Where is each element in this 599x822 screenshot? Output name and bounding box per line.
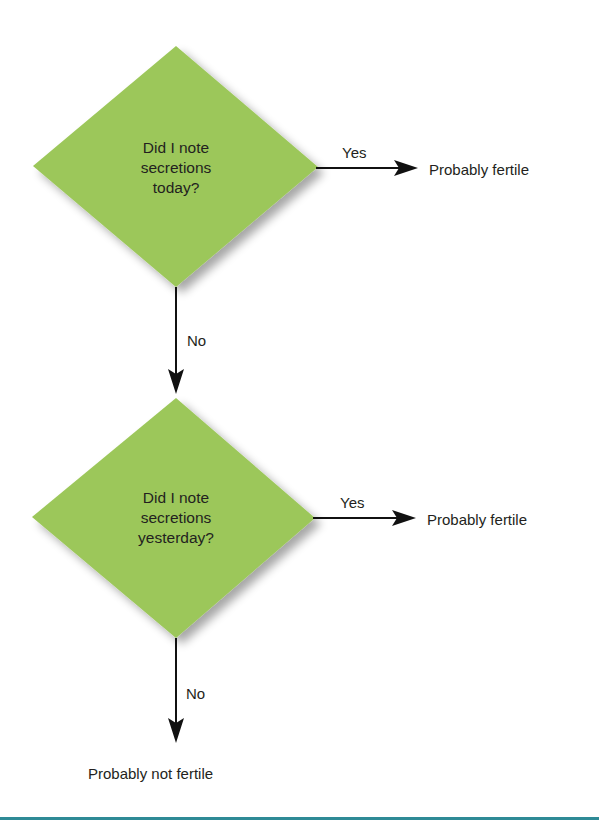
outcome-probably-fertile-1: Probably fertile [429, 160, 529, 179]
edge-label-yes-1: Yes [342, 143, 366, 162]
decision-2-text: Did I note secretions yesterday? [106, 488, 246, 548]
decision-1-line1: Did I note [106, 138, 246, 158]
decision-2-line2: secretions [106, 508, 246, 528]
edge-label-yes-2: Yes [340, 493, 364, 512]
decision-2-line1: Did I note [106, 488, 246, 508]
bottom-rule [0, 817, 599, 820]
decision-1-text: Did I note secretions today? [106, 138, 246, 198]
decision-2-line3: yesterday? [106, 528, 246, 548]
flowchart-canvas [0, 0, 599, 822]
decision-1-line3: today? [106, 178, 246, 198]
edge-label-no-2: No [186, 684, 205, 703]
edge-label-no-1: No [187, 331, 206, 350]
outcome-probably-not-fertile: Probably not fertile [88, 764, 213, 783]
decision-1-line2: secretions [106, 158, 246, 178]
outcome-probably-fertile-2: Probably fertile [427, 510, 527, 529]
